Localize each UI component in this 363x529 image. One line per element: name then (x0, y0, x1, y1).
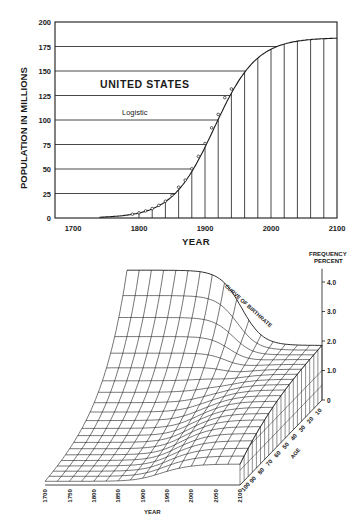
age-tick-label: 40 (289, 432, 298, 441)
birthrate-surface-chart: 01.02.03.04.0 17001750180018501900195020… (41, 251, 346, 515)
census-point (177, 186, 180, 189)
x-axis-label: YEAR (182, 236, 210, 247)
census-point (158, 204, 161, 207)
year-tick-label: 1950 (163, 488, 170, 502)
z-tick-label: 4.0 (327, 279, 336, 286)
age-tick-label: 90 (248, 475, 257, 484)
census-point (224, 96, 227, 99)
y-tick-label: 200 (38, 18, 51, 27)
census-point (204, 142, 207, 145)
z-tick-label: 1.0 (327, 367, 336, 374)
y-tick-label: 75 (43, 141, 51, 150)
population-logistic-chart: 0255075100125150175200 17001800190020002… (18, 18, 345, 247)
year-tick-label: 1850 (114, 488, 121, 502)
census-point (184, 179, 187, 182)
y-tick-label: 50 (43, 165, 51, 174)
census-point (151, 207, 154, 210)
age-tick-label: 20 (306, 415, 315, 424)
chart-title: UNITED STATES (100, 78, 190, 90)
year-axis-label: YEAR (144, 509, 161, 515)
census-point (197, 155, 200, 158)
age-tick-label: 60 (273, 449, 282, 458)
chart-canvas: 0255075100125150175200 17001800190020002… (0, 0, 363, 529)
census-point (191, 168, 194, 171)
horizontal-gridlines (55, 47, 277, 194)
year-tick-label: 1900 (139, 488, 146, 502)
y-tick-label: 100 (38, 116, 51, 125)
year-tick-label: 1700 (41, 488, 48, 502)
year-tick-label: 2000 (187, 488, 194, 502)
y-tick-labels: 0255075100125150175200 (38, 18, 51, 223)
z-tick-label: 3.0 (327, 308, 336, 315)
census-point (171, 194, 174, 197)
year-tick-label: 2050 (212, 488, 219, 502)
x-tick-label: 1900 (197, 224, 214, 233)
surface-side-wall (240, 345, 322, 485)
y-tick-label: 25 (43, 190, 51, 199)
y-tick-label: 0 (47, 214, 51, 223)
z-tick-label: 0 (327, 397, 331, 404)
census-points (131, 88, 233, 216)
age-tick-label: 10 (314, 407, 323, 416)
age-tick-label: 30 (298, 424, 307, 433)
x-tick-labels: 17001800190020002100 (65, 224, 346, 233)
y-axis-label: POPULATION IN MILLIONS (18, 67, 29, 189)
census-point (217, 113, 220, 116)
year-tick-labels: 170017501800185019001950200020502100 (41, 488, 243, 502)
x-tick-label: 1700 (65, 224, 82, 233)
census-point (138, 212, 141, 215)
census-point (131, 213, 134, 216)
x-tick-label: 1800 (131, 224, 148, 233)
z-axis-label-line2: PERCENT (314, 258, 343, 264)
age-tick-label: 80 (257, 466, 266, 475)
year-tick-label: 1800 (90, 488, 97, 502)
frequency-axis: 01.02.03.04.0 (322, 269, 336, 404)
year-tick-label: 1750 (66, 488, 73, 502)
chart-subtitle: Logistic (122, 108, 148, 117)
z-axis-label-line1: FREQUENCY (309, 251, 347, 257)
y-tick-label: 125 (38, 92, 51, 101)
x-tick-label: 2000 (263, 224, 280, 233)
y-tick-label: 175 (38, 43, 51, 52)
y-tick-label: 150 (38, 67, 51, 76)
census-point (230, 88, 233, 91)
age-tick-label: 50 (281, 441, 290, 450)
vertical-drop-lines (139, 39, 324, 218)
census-point (164, 200, 167, 203)
census-point (210, 127, 213, 130)
age-tick-label: 70 (265, 458, 274, 467)
age-axis-label: AGE (289, 446, 301, 459)
census-point (144, 210, 147, 213)
z-tick-label: 2.0 (327, 338, 336, 345)
x-tick-label: 2100 (329, 224, 346, 233)
